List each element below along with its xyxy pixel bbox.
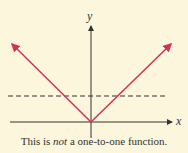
- figure-caption: This is not a one-to-one function.: [0, 135, 188, 147]
- caption-emphasis: not: [53, 135, 67, 147]
- x-axis-label: x: [176, 114, 181, 129]
- y-axis-label: y: [87, 9, 92, 24]
- caption-after: a one-to-one function.: [67, 135, 167, 147]
- caption-before: This is: [21, 135, 53, 147]
- abs-graph-left-branch: [12, 44, 91, 122]
- graph-canvas: [0, 0, 188, 153]
- abs-graph-right-branch: [91, 44, 171, 122]
